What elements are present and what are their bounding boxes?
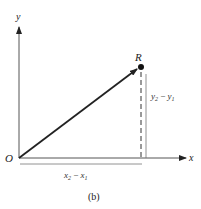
vertical-span-label: y2 − y1 [150, 91, 175, 102]
y-axis-label: y [15, 11, 21, 22]
horizontal-span-label: x2 − x1 [63, 170, 88, 181]
point-r-label: R [134, 51, 142, 63]
point-r-dot [138, 64, 144, 70]
vector-arrow [19, 69, 137, 158]
origin-label: O [5, 152, 13, 164]
figure-caption: (b) [88, 191, 100, 203]
vector-diagram: y x O R y2 − y1 x2 − x1 (b) [0, 0, 201, 209]
x-axis-label: x [188, 152, 194, 163]
